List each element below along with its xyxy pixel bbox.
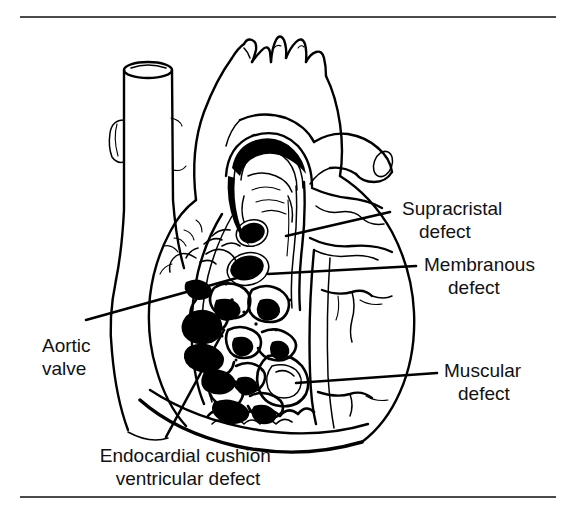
superior-vena-cava [109,62,186,440]
label-muscular: Muscular defect [444,360,526,404]
label-supracristal-line2: defect [419,221,471,242]
leader-muscular [296,373,437,383]
label-endocardial-cushion: Endocardial cushion ventricular defect [100,445,276,489]
valve-annulus-region [160,220,202,274]
label-aortic-valve: Aortic valve [42,335,96,379]
pulmonary-artery [310,134,396,184]
figure-root: Supracristal defect Membranous defect Mu… [0,0,562,514]
leader-lines-group [86,212,437,437]
label-aortic-valve-line1: Aortic [42,335,91,356]
labels-group: Supracristal defect Membranous defect Mu… [42,198,540,489]
leader-membranous [268,266,416,274]
label-endocardial-cushion-line2: ventricular defect [116,468,261,489]
label-muscular-line1: Muscular [444,360,522,381]
label-membranous-line2: defect [448,277,500,298]
label-endocardial-cushion-line1: Endocardial cushion [100,445,271,466]
heart-illustration-svg: Supracristal defect Membranous defect Mu… [0,0,562,514]
label-membranous-line1: Membranous [424,254,535,275]
label-supracristal: Supracristal defect [402,198,508,242]
aortic-arch [194,37,342,201]
aortic-root-cutaway [226,133,312,310]
right-ventricle-surface [310,188,393,428]
label-muscular-line2: defect [458,383,510,404]
label-supracristal-line1: Supracristal [402,198,502,219]
label-membranous: Membranous defect [424,254,540,298]
label-aortic-valve-line2: valve [42,358,86,379]
